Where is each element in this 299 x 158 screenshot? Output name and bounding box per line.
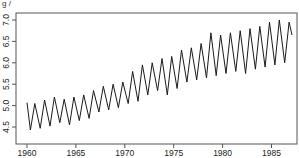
- y-tick-label: 4.5: [1, 121, 11, 133]
- series-line: [27, 20, 292, 130]
- y-tick-label: 6.5: [1, 35, 11, 47]
- y-axis: 4.55.05.56.06.57.0: [1, 14, 16, 133]
- series-layer: [27, 20, 292, 130]
- y-tick-label: 5.5: [1, 78, 11, 90]
- x-tick-label: 1965: [66, 148, 85, 158]
- y-tick-label: 5.0: [1, 99, 11, 111]
- x-tick-label: 1970: [115, 148, 134, 158]
- x-tick-label: 1985: [262, 148, 281, 158]
- y-tick-label: 6.0: [1, 57, 11, 69]
- y-tick-label: 7.0: [1, 14, 11, 26]
- x-axis: 196019651970197519801985: [18, 144, 282, 158]
- top-cropped-text: g /: [2, 0, 12, 8]
- plot-frame: [16, 13, 297, 144]
- x-tick-label: 1975: [164, 148, 183, 158]
- x-tick-label: 1980: [213, 148, 232, 158]
- x-tick-label: 1960: [18, 148, 37, 158]
- time-series-chart: g / 4.55.05.56.06.57.0 19601965197019751…: [0, 0, 299, 158]
